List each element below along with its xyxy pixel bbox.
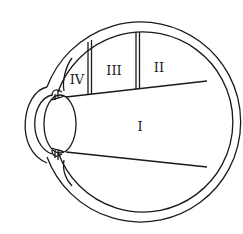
ora-lower <box>63 160 72 186</box>
region-label-iii: III <box>106 63 121 78</box>
region-label-iv: IV <box>70 72 85 87</box>
region-label-ii: II <box>154 60 164 75</box>
eye-diagram: IV III II I <box>0 0 243 234</box>
eye-diagram-svg: IV III II I <box>0 0 243 234</box>
region-label-i: I <box>137 119 142 134</box>
lens <box>44 95 76 153</box>
sclera-inner <box>58 32 233 212</box>
lower-boundary-line <box>66 152 207 167</box>
